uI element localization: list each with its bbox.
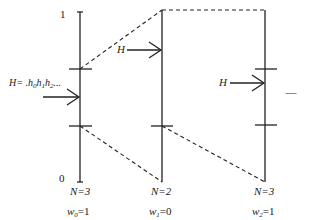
arrow-label-h: H	[117, 44, 125, 55]
column-0-n-label: N=3	[70, 186, 90, 197]
arrow-icon	[43, 89, 79, 105]
axis-2	[255, 10, 277, 182]
continuation-ellipsis: ...........	[285, 88, 296, 96]
arrow-label-h: H	[219, 77, 227, 88]
column-2-weight: w2=1	[252, 206, 275, 217]
column-1-n-label: N=2	[151, 186, 171, 197]
digit-h1: h1	[36, 77, 45, 88]
dashed-mapping-lines	[80, 10, 265, 182]
column-0-weight: w0=1	[67, 206, 90, 217]
column-1-weight: w1=0	[149, 206, 172, 217]
arrow-icon	[230, 75, 264, 91]
axis-1	[151, 10, 173, 182]
axis-top-label: 1	[60, 9, 66, 20]
input-label-prefix: H= .	[9, 77, 28, 88]
input-label-suffix: ...	[53, 77, 61, 88]
axis-bottom-label: 0	[59, 173, 65, 184]
column-2-n-label: N=3	[254, 186, 274, 197]
arrow-icon	[127, 42, 161, 58]
input-sequence-label: H= .h0h1h2...	[9, 78, 61, 88]
